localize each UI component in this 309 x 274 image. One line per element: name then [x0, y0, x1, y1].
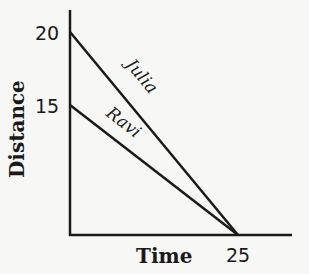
y-axis-title: Distance	[5, 80, 29, 178]
y-tick-20: 20	[35, 22, 59, 44]
x-axis-title: Time	[136, 244, 192, 268]
ravi-line	[70, 105, 238, 235]
x-tick-25: 25	[226, 244, 250, 266]
distance-time-chart: 20 15 25 Time Distance Julia Ravi	[0, 0, 309, 274]
julia-line	[70, 32, 238, 235]
julia-label: Julia	[120, 52, 162, 97]
y-tick-15: 15	[35, 95, 59, 117]
